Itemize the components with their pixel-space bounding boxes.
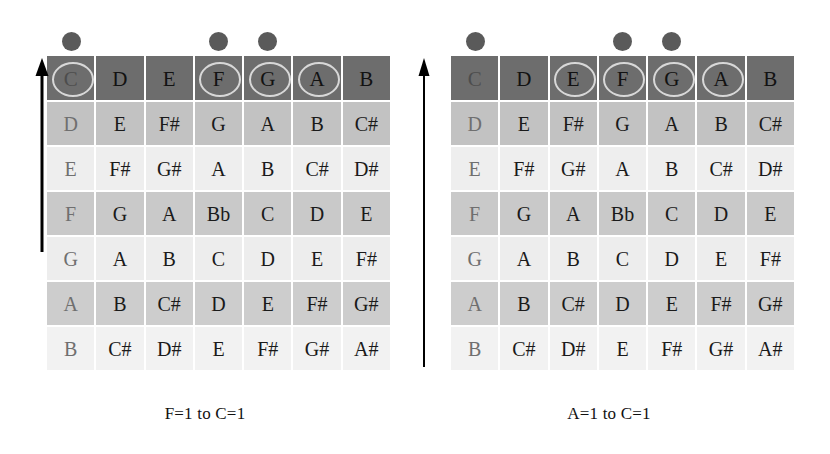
cell-r1c5[interactable]: A xyxy=(244,102,293,147)
cell-r6c7[interactable]: A# xyxy=(747,327,794,372)
cell-r2c2[interactable]: F# xyxy=(500,147,549,192)
header-cell-C[interactable]: C xyxy=(47,56,96,102)
header-cell-E[interactable]: E xyxy=(146,56,195,102)
header-cell-A[interactable]: A xyxy=(697,56,746,102)
dot-marker-icon xyxy=(564,32,583,51)
cell-r3c2[interactable]: G xyxy=(500,192,549,237)
cell-r1c6[interactable]: B xyxy=(697,102,746,147)
cell-r5c4[interactable]: D xyxy=(195,282,244,327)
cell-r3c7[interactable]: E xyxy=(343,192,390,237)
cell-r5c3[interactable]: C# xyxy=(550,282,599,327)
cell-r5c6[interactable]: F# xyxy=(293,282,342,327)
cell-r1c2[interactable]: E xyxy=(500,102,549,147)
cell-r4c6[interactable]: E xyxy=(293,237,342,282)
cell-r3c6[interactable]: D xyxy=(697,192,746,237)
cell-r5c7[interactable]: G# xyxy=(343,282,390,327)
cell-r5c2[interactable]: B xyxy=(96,282,145,327)
cell-r4c4[interactable]: C xyxy=(599,237,648,282)
cell-r3c1[interactable]: F xyxy=(451,192,500,237)
cell-r2c6[interactable]: C# xyxy=(697,147,746,192)
cell-r2c2[interactable]: F# xyxy=(96,147,145,192)
cell-r6c3[interactable]: D# xyxy=(146,327,195,372)
cell-r6c7[interactable]: A# xyxy=(343,327,390,372)
cell-r6c5[interactable]: F# xyxy=(244,327,293,372)
cell-r4c2[interactable]: A xyxy=(96,237,145,282)
cell-r1c6[interactable]: B xyxy=(293,102,342,147)
cell-r6c2[interactable]: C# xyxy=(500,327,549,372)
cell-r5c4[interactable]: D xyxy=(599,282,648,327)
cell-r4c4[interactable]: C xyxy=(195,237,244,282)
header-cell-B[interactable]: B xyxy=(747,56,794,102)
cell-r6c5[interactable]: F# xyxy=(648,327,697,372)
cell-r2c5[interactable]: B xyxy=(244,147,293,192)
cell-r1c4[interactable]: G xyxy=(195,102,244,147)
header-cell-A[interactable]: A xyxy=(293,56,342,102)
cell-r5c6[interactable]: F# xyxy=(697,282,746,327)
cell-r6c1[interactable]: B xyxy=(451,327,500,372)
cell-r4c2[interactable]: A xyxy=(500,237,549,282)
cell-r4c3[interactable]: B xyxy=(550,237,599,282)
cell-r4c1[interactable]: G xyxy=(451,237,500,282)
cell-r1c7[interactable]: C# xyxy=(747,102,794,147)
cell-r5c5[interactable]: E xyxy=(244,282,293,327)
cell-r6c2[interactable]: C# xyxy=(96,327,145,372)
cell-r2c3[interactable]: G# xyxy=(550,147,599,192)
cell-r1c1[interactable]: D xyxy=(451,102,500,147)
cell-r2c3[interactable]: G# xyxy=(146,147,195,192)
cell-r3c3[interactable]: A xyxy=(550,192,599,237)
cell-r5c7[interactable]: G# xyxy=(747,282,794,327)
header-cell-B[interactable]: B xyxy=(343,56,390,102)
cell-r2c4[interactable]: A xyxy=(599,147,648,192)
header-cell-F[interactable]: F xyxy=(599,56,648,102)
cell-r5c5[interactable]: E xyxy=(648,282,697,327)
cell-r4c6[interactable]: E xyxy=(697,237,746,282)
cell-r1c5[interactable]: A xyxy=(648,102,697,147)
cell-r4c7[interactable]: F# xyxy=(343,237,390,282)
cell-r1c2[interactable]: E xyxy=(96,102,145,147)
cell-r5c3[interactable]: C# xyxy=(146,282,195,327)
header-cell-D[interactable]: D xyxy=(500,56,549,102)
cell-r3c2[interactable]: G xyxy=(96,192,145,237)
header-cell-E[interactable]: E xyxy=(550,56,599,102)
cell-r5c1[interactable]: A xyxy=(451,282,500,327)
cell-r6c6[interactable]: G# xyxy=(697,327,746,372)
cell-r5c2[interactable]: B xyxy=(500,282,549,327)
cell-r2c1[interactable]: E xyxy=(451,147,500,192)
cell-r4c1[interactable]: G xyxy=(47,237,96,282)
cell-r5c1[interactable]: A xyxy=(47,282,96,327)
cell-r1c4[interactable]: G xyxy=(599,102,648,147)
cell-r2c6[interactable]: C# xyxy=(293,147,342,192)
cell-r3c5[interactable]: C xyxy=(244,192,293,237)
cell-r2c7[interactable]: D# xyxy=(343,147,390,192)
cell-r4c3[interactable]: B xyxy=(146,237,195,282)
cell-r1c3[interactable]: F# xyxy=(146,102,195,147)
header-cell-F[interactable]: F xyxy=(195,56,244,102)
cell-r3c4[interactable]: Bb xyxy=(599,192,648,237)
cell-r1c7[interactable]: C# xyxy=(343,102,390,147)
cell-r3c7[interactable]: E xyxy=(747,192,794,237)
cell-r6c4[interactable]: E xyxy=(195,327,244,372)
cell-r1c1[interactable]: D xyxy=(47,102,96,147)
dot-marker-icon xyxy=(160,32,179,51)
cell-r6c6[interactable]: G# xyxy=(293,327,342,372)
cell-r2c5[interactable]: B xyxy=(648,147,697,192)
header-cell-G[interactable]: G xyxy=(244,56,293,102)
cell-r3c4[interactable]: Bb xyxy=(195,192,244,237)
cell-r2c7[interactable]: D# xyxy=(747,147,794,192)
cell-r6c4[interactable]: E xyxy=(599,327,648,372)
header-cell-G[interactable]: G xyxy=(648,56,697,102)
cell-r1c3[interactable]: F# xyxy=(550,102,599,147)
cell-r4c5[interactable]: D xyxy=(648,237,697,282)
cell-r2c1[interactable]: E xyxy=(47,147,96,192)
header-cell-D[interactable]: D xyxy=(96,56,145,102)
cell-r3c5[interactable]: C xyxy=(648,192,697,237)
cell-r3c6[interactable]: D xyxy=(293,192,342,237)
cell-r3c1[interactable]: F xyxy=(47,192,96,237)
cell-r2c4[interactable]: A xyxy=(195,147,244,192)
cell-r4c5[interactable]: D xyxy=(244,237,293,282)
cell-r6c3[interactable]: D# xyxy=(550,327,599,372)
cell-r6c1[interactable]: B xyxy=(47,327,96,372)
header-cell-C[interactable]: C xyxy=(451,56,500,102)
cell-r4c7[interactable]: F# xyxy=(747,237,794,282)
cell-r3c3[interactable]: A xyxy=(146,192,195,237)
